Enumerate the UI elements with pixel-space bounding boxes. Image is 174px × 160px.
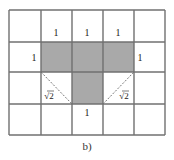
length-label: 1 xyxy=(138,52,143,63)
length-label: 1 xyxy=(54,27,59,38)
length-label: 1 xyxy=(85,27,90,38)
shaded-cell xyxy=(41,42,72,72)
shaded-cell xyxy=(103,42,134,72)
shaded-cell xyxy=(72,42,103,72)
shaded-cell xyxy=(72,72,103,104)
length-label: 1 xyxy=(85,107,90,118)
figure-caption: b) xyxy=(0,140,174,152)
sqrt2-label: √2 xyxy=(119,91,128,101)
length-label: 1 xyxy=(32,52,37,63)
sqrt2-label: √2 xyxy=(44,91,53,101)
grid-figure: 111111√2√2 xyxy=(0,0,174,160)
length-label: 1 xyxy=(116,27,121,38)
